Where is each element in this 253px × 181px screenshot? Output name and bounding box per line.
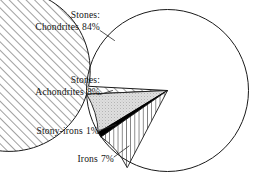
slice-label-name: Achondrites	[35, 86, 84, 97]
slice-label-name: Stony-irons	[36, 125, 82, 136]
slice-label-stones-chondrites: Stones: Chondrites84%	[0, 9, 100, 34]
slice-label-line2: Chondrites84%	[0, 21, 100, 33]
slice-label-value: 7%	[101, 153, 114, 164]
slice-label-line1: Stones:	[0, 9, 100, 21]
slice-label-stones-achondrites: Stones: Achondrites8%	[0, 74, 100, 99]
leader-line-chondrites	[100, 31, 115, 41]
slice-label-value: 84%	[82, 21, 100, 32]
slice-label-line2: Achondrites8%	[0, 86, 100, 98]
pie-chart-figure: Stones: Chondrites84% Stones: Achondrite…	[0, 0, 253, 181]
slice-label-value: 1%	[86, 125, 99, 136]
slice-label-name: Chondrites	[35, 21, 79, 32]
slice-label-line2: Stony-irons1%	[0, 125, 99, 137]
slice-label-value: 8%	[87, 86, 100, 97]
slice-label-line1: Stones:	[0, 74, 100, 86]
slice-label-name: Irons	[77, 153, 97, 164]
slice-label-stony-irons: Stony-irons1%	[0, 125, 99, 137]
slice-label-irons: Irons7%	[0, 153, 114, 165]
slice-label-line2: Irons7%	[0, 153, 114, 165]
